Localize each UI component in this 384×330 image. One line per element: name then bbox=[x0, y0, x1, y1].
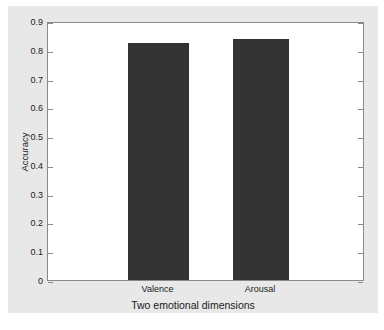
y-tick-mark bbox=[358, 81, 363, 82]
y-tick-mark bbox=[48, 282, 53, 283]
y-tick-mark bbox=[48, 109, 53, 110]
y-tick-mark bbox=[358, 253, 363, 254]
y-tick-label: 0.2 bbox=[30, 218, 43, 228]
y-tick-mark bbox=[358, 196, 363, 197]
y-tick-mark bbox=[48, 224, 53, 225]
y-tick-mark bbox=[358, 52, 363, 53]
y-tick-mark bbox=[358, 224, 363, 225]
y-axis-tick-labels: 00.10.20.30.40.50.60.70.80.9 bbox=[8, 22, 43, 281]
y-tick-mark bbox=[358, 138, 363, 139]
bar-arousal bbox=[233, 39, 289, 280]
y-tick-label: 0.7 bbox=[30, 75, 43, 85]
y-tick-label: 0.1 bbox=[30, 247, 43, 257]
y-tick-mark bbox=[48, 81, 53, 82]
y-tick-mark bbox=[48, 167, 53, 168]
y-tick-label: 0.9 bbox=[30, 17, 43, 27]
y-tick-label: 0.5 bbox=[30, 132, 43, 142]
y-tick-mark bbox=[358, 23, 363, 24]
y-tick-label: 0.6 bbox=[30, 103, 43, 113]
y-tick-mark bbox=[358, 167, 363, 168]
x-axis-tick-labels: ValenceArousal bbox=[8, 284, 378, 298]
x-tick-label-arousal: Arousal bbox=[245, 284, 276, 294]
bar-valence bbox=[128, 43, 189, 280]
y-tick-mark bbox=[48, 196, 53, 197]
y-tick-mark bbox=[358, 282, 363, 283]
y-tick-label: 0.4 bbox=[30, 161, 43, 171]
y-tick-mark bbox=[358, 109, 363, 110]
y-tick-mark bbox=[48, 52, 53, 53]
x-axis-label: Two emotional dimensions bbox=[8, 299, 378, 311]
y-tick-mark bbox=[48, 253, 53, 254]
y-tick-label: 0.8 bbox=[30, 46, 43, 56]
x-tick-label-valence: Valence bbox=[142, 284, 174, 294]
figure-background: Accuracy 00.10.20.30.40.50.60.70.80.9 Va… bbox=[8, 6, 378, 313]
y-tick-label: 0.3 bbox=[30, 190, 43, 200]
y-tick-mark bbox=[48, 138, 53, 139]
plot-area bbox=[47, 22, 364, 281]
y-tick-mark bbox=[48, 23, 53, 24]
